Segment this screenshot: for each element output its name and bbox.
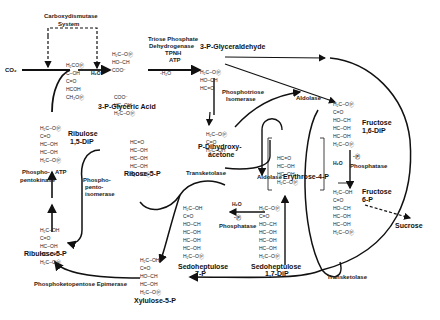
atp-label: ATP [169,57,181,64]
minus-h2o-label: -H₂O [160,70,171,77]
h2o-right-label: H₂O [333,160,343,167]
gap-label: 3-P-Glyceraldehyde [200,43,265,51]
phosphotriose-label-1: Phosphotriose [222,89,264,96]
intermediate-structure: H₂COⓅC–OHC=OHCOHCH₂OⓅ [66,45,84,109]
ru5p-structure: H₂C–OHC=OHC–OHHC–OHH₂C–OⓅ [40,210,61,274]
e4p-structure: HC=OHC–OHHC–OHH₂C–OⓅ [277,138,298,194]
pga-label: 3-P-Glyceric Acid [98,103,156,111]
epimerase-label: Phosphoketopentose Epimerase [34,281,127,288]
transketolase-bottom-label: Transketolase [327,274,367,281]
epimerase-arrow [55,262,140,278]
co2-label: CO₂ [5,66,17,74]
pga-top-structure: H₂C–OⓅHO–CHCOO⁻ [112,34,133,82]
aldolase-mid-label: Aldolase [257,174,282,181]
phosphatase-mid-label: Phosphatase [219,223,256,230]
minus-p-mid-label: -Ⓟ [234,214,241,221]
gap-to-right-arrow [225,57,325,58]
transketolase-to-xylulose-arrow [190,270,322,277]
rudp-label-1: Ribulose [68,130,98,138]
pga-bottom-structure: COO⁻HC–OHH₂C–OⓅ [114,77,135,125]
phosphopentokinase-label-2: pentokinase [20,177,55,184]
phosphopento-isomerase-label-2: pento- [85,184,103,191]
phosphatase-right-label: Phosphatase [350,163,387,170]
fdp-label-1: Fructose [362,119,392,127]
sdp-structure: H₂C–OⓅC=OHO–CHHC–OHHC–OHHC–OHH₂C–OⓅ [259,188,280,268]
sucrose-label: Sucrose [395,222,423,230]
atp-left-label: ATP [55,169,67,176]
tpnh-label: TPNH [165,50,181,57]
carboxydismutase-label: Carboxydismutase [44,13,98,20]
system-label: System [58,21,79,28]
phosphotriose-label-2: Isomerase [226,96,256,103]
transketolase-mid-label: Transketolase [186,170,226,177]
erythrose-label: Erythrose-4-P [283,173,329,181]
ru5p-label: Ribulose-5-P [24,250,67,258]
minus-p-right-label: -Ⓟ [353,153,360,160]
fdp-structure: H₂C–OⓅC=OHO–CHHC–OHHC–OHH₂C–OⓅ [333,84,354,156]
rudp-structure: H₂C–OⓅC=OHC–OHHC–OHH₂C–OⓅ [40,108,61,172]
s7p-structure: H₂C–OHC=OHO–CHHC–OHHC–OHHC–OHH₂C–OⓅ [183,188,204,268]
x5p-structure: H₂C–OHC=OHO–CHHC–OHH₂C–OⓅ [140,240,161,304]
f6p-label-2: 6-P [362,196,373,204]
rudp-label-2: 1,5-DiP [70,138,94,146]
sdp-label-2: 1,7-DiP [265,270,289,278]
phosphopento-isomerase-label-3: isomerase [85,191,115,198]
dhap-label-1: P-Dihydroxy- [198,143,242,151]
triose-dh-label-2: Dehydrogenase [149,43,194,50]
gap-structure: H₂C–OⓅHO–CHHC=O [200,52,221,100]
f6p-structure: H₂C–OHC=OHO–CHHC–OHHC–OHH₂C–OⓅ [333,172,354,244]
f6p-label-1: Fructose [362,188,392,196]
ribose-label: Ribose-5-P [124,170,161,178]
triose-dh-label-1: Triose Phosphate [148,36,198,43]
s7p-label-2: 7-P [195,270,206,278]
fdp-label-2: 1,6-DiP [362,127,386,135]
phosphopento-isomerase-label-1: Phospho- [83,177,111,184]
dhap-label-2: acetone [208,151,234,159]
h2o-label: H₂O [91,70,101,77]
xylulose-label: Xylulose-5-P [134,297,176,305]
aldolase-top-label: Aldolase [296,95,321,102]
phosphopentokinase-label-1: Phospho- [22,169,50,176]
h2o-mid-label: H₂O [232,201,242,208]
f6p-to-sucrose-arrow [365,205,410,218]
